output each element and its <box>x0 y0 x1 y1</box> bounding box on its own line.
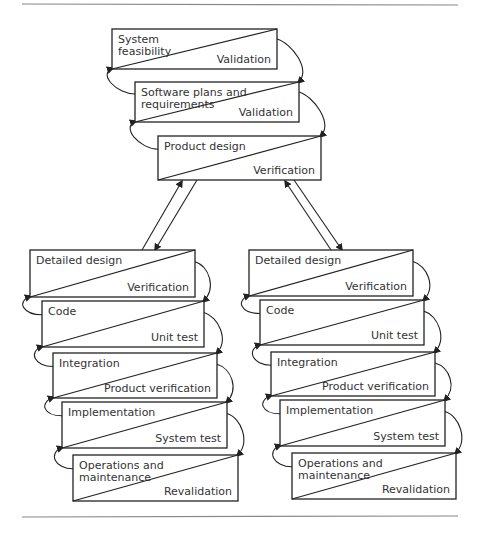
check-label: Unit test <box>151 331 199 344</box>
forward-arrow <box>217 364 233 403</box>
forward-arrow <box>195 262 210 302</box>
phase-label: Implementation <box>286 404 373 417</box>
forward-arrow <box>227 414 244 457</box>
forward-arrow <box>204 313 222 355</box>
forward-arrow <box>435 363 451 401</box>
left-integration-box: IntegrationProduct verification <box>53 353 217 398</box>
backward-arrow <box>45 397 62 416</box>
backward-arrow <box>54 447 73 469</box>
phase-label: Code <box>266 304 294 317</box>
phase-label: Detailed design <box>255 254 341 267</box>
check-label: System test <box>155 432 221 445</box>
check-label: System test <box>373 430 439 443</box>
backward-arrow <box>273 445 292 467</box>
right-branch-up-arrow <box>285 181 331 250</box>
phase-label: Code <box>48 305 76 318</box>
check-label: Verification <box>127 281 189 294</box>
right-code-box: CodeUnit test <box>260 300 424 345</box>
phase-label: Integration <box>277 356 338 369</box>
phase-label: maintenance <box>79 471 151 484</box>
check-label: Product verification <box>104 382 211 395</box>
check-label: Revalidation <box>382 483 450 496</box>
check-label: Verification <box>345 280 407 293</box>
software-plans-box: Software plans andrequirementsValidation <box>135 82 299 122</box>
forward-arrow <box>424 311 441 353</box>
backward-arrow <box>241 295 260 314</box>
product-design-box: Product designVerification <box>158 136 321 180</box>
left-code-box: CodeUnit test <box>42 301 204 347</box>
right-detailed-design-box: Detailed designVerification <box>249 250 413 296</box>
right-operations-box: Operations andmaintenanceRevalidation <box>292 453 456 499</box>
backward-arrow <box>263 395 280 414</box>
phase-label: Implementation <box>68 406 155 419</box>
right-implementation-box: ImplementationSystem test <box>280 400 445 446</box>
forward-arrow <box>277 39 303 83</box>
check-label: Revalidation <box>164 485 232 498</box>
backward-arrow <box>107 68 135 94</box>
phase-label: Product design <box>164 140 246 153</box>
left-operations-box: Operations andmaintenanceRevalidation <box>73 455 238 501</box>
phase-label: maintenance <box>298 469 370 482</box>
check-label: Verification <box>253 164 315 177</box>
left-detailed-design-box: Detailed designVerification <box>30 250 195 297</box>
right-integration-box: IntegrationProduct verification <box>271 352 435 396</box>
check-label: Product verification <box>322 380 429 393</box>
waterfall-diagram: SystemfeasibilityValidationSoftware plan… <box>0 0 479 533</box>
phase-boxes: SystemfeasibilityValidationSoftware plan… <box>30 29 456 501</box>
top-rule <box>22 4 458 5</box>
left-implementation-box: ImplementationSystem test <box>62 402 227 448</box>
branch-arrows <box>142 180 342 250</box>
backward-arrow <box>23 296 42 315</box>
phase-label: Detailed design <box>36 254 122 267</box>
forward-arrow <box>445 412 462 455</box>
check-label: Validation <box>217 53 271 66</box>
forward-arrow <box>299 92 325 137</box>
system-feasibility-box: SystemfeasibilityValidation <box>112 29 277 69</box>
right-branch-down-arrow <box>294 180 342 250</box>
bottom-rule <box>22 516 458 517</box>
backward-arrow <box>130 121 158 149</box>
backward-arrow <box>252 344 271 365</box>
check-label: Validation <box>239 106 293 119</box>
phase-label: feasibility <box>118 45 172 58</box>
forward-arrow <box>413 262 430 302</box>
backward-arrow <box>34 346 53 367</box>
check-label: Unit test <box>371 329 419 342</box>
phase-label: requirements <box>141 98 215 111</box>
phase-label: Integration <box>59 357 120 370</box>
